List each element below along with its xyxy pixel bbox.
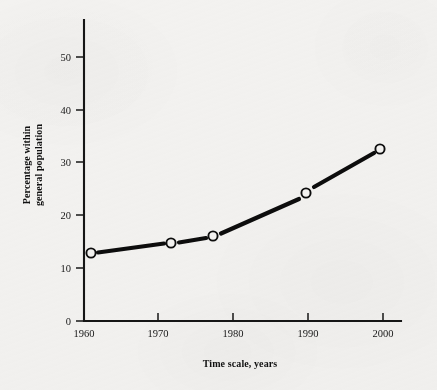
line-segment-3 bbox=[221, 199, 299, 234]
x-axis-ticks bbox=[84, 313, 383, 321]
x-tick-label-1990: 1990 bbox=[298, 328, 319, 339]
line-chart-figure: 0 10 20 30 40 50 1960 1970 1980 1990 200… bbox=[0, 0, 437, 390]
y-tick-label-10: 10 bbox=[61, 263, 72, 274]
y-axis-title: Percentage within general population bbox=[21, 124, 44, 206]
data-series-line bbox=[98, 153, 374, 253]
y-axis-title-line-1: Percentage within bbox=[21, 125, 32, 204]
x-axis-title: Time scale, years bbox=[203, 358, 278, 369]
data-point-markers bbox=[86, 144, 384, 257]
data-point-1978 bbox=[208, 231, 217, 240]
y-axis-ticks bbox=[76, 57, 84, 321]
y-axis-tick-labels: 0 10 20 30 40 50 bbox=[61, 52, 72, 327]
y-tick-label-50: 50 bbox=[61, 52, 72, 63]
data-point-1961 bbox=[86, 248, 95, 257]
line-segment-1 bbox=[98, 244, 164, 253]
x-tick-label-1960: 1960 bbox=[74, 328, 95, 339]
chart-canvas: 0 10 20 30 40 50 1960 1970 1980 1990 200… bbox=[0, 0, 437, 390]
line-segment-2 bbox=[179, 238, 206, 243]
y-tick-label-0: 0 bbox=[66, 316, 71, 327]
x-tick-label-1970: 1970 bbox=[148, 328, 169, 339]
line-segment-4 bbox=[314, 153, 374, 187]
x-tick-label-2000: 2000 bbox=[373, 328, 394, 339]
data-point-1972 bbox=[166, 238, 175, 247]
x-tick-label-1980: 1980 bbox=[223, 328, 244, 339]
data-point-1999 bbox=[375, 144, 384, 153]
y-tick-label-20: 20 bbox=[61, 210, 72, 221]
y-tick-label-40: 40 bbox=[61, 105, 72, 116]
x-axis-tick-labels: 1960 1970 1980 1990 2000 bbox=[74, 328, 394, 339]
data-point-1990 bbox=[301, 188, 310, 197]
y-tick-label-30: 30 bbox=[61, 157, 72, 168]
y-axis-title-line-2: general population bbox=[33, 124, 44, 206]
